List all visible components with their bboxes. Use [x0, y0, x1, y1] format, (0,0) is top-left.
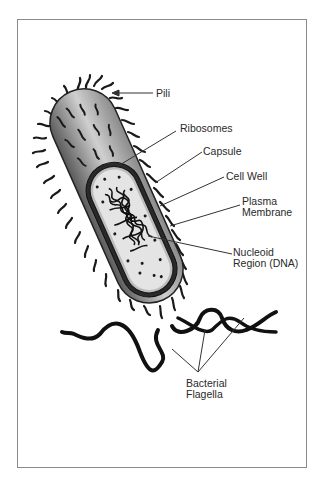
label-flagella: Bacterial Flagella — [186, 378, 227, 400]
label-nucleoid: Nucleoid Region (DNA) — [233, 247, 298, 269]
label-ribosomes: Ribosomes — [180, 123, 233, 134]
label-pili: Pili — [156, 88, 170, 99]
bacterium-illustration — [0, 0, 323, 484]
label-capsule: Capsule — [203, 146, 242, 157]
label-nucleoid-line2: Region (DNA) — [233, 258, 298, 269]
label-plasma-line2: Membrane — [242, 207, 292, 218]
label-cell-wall: Cell Well — [226, 171, 267, 182]
label-plasma-membrane: Plasma Membrane — [242, 196, 292, 218]
label-flagella-line2: Flagella — [186, 389, 227, 400]
